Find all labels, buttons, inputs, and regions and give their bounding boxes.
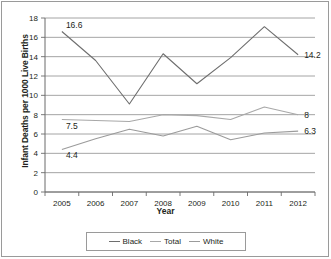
legend-label-white: White [203,237,223,246]
data-label: 6.3 [304,126,316,136]
data-label: 4.4 [66,150,78,160]
data-point-labels: 16.614.27.584.46.3 [66,20,321,161]
legend-item-black[interactable]: Black [109,237,143,246]
y-tick-label: 4 [34,149,39,158]
y-tick-labels: 024681012141618 [29,14,38,197]
y-tick-label: 8 [34,111,39,120]
chart-figure: Infant Deaths per 1000 Live Births 02468… [0,0,331,259]
gridlines [45,18,315,192]
legend-item-total[interactable]: Total [150,237,181,246]
y-tick-label: 14 [29,53,38,62]
legend-item-white[interactable]: White [189,237,223,246]
data-label: 16.6 [66,20,83,30]
data-label: 8 [304,110,309,120]
y-tick-label: 10 [29,91,38,100]
y-tick-label: 2 [34,169,39,178]
y-tick-label: 0 [34,188,39,197]
x-tick-marks [45,192,315,196]
series-line-white [62,126,298,149]
chart-legend: Black Total White [86,232,246,251]
legend-label-total: Total [164,237,181,246]
y-tick-label: 18 [29,14,38,23]
legend-line-icon-total [150,241,161,242]
series-lines [62,27,298,150]
y-tick-label: 12 [29,72,38,81]
data-label: 14.2 [304,50,321,60]
legend-label-black: Black [123,237,143,246]
series-line-total [62,107,298,122]
line-chart-svg: 024681012141618 200520062007200820092010… [0,0,331,259]
x-axis-title: Year [0,206,331,216]
y-tick-label: 16 [29,33,38,42]
y-tick-label: 6 [34,130,39,139]
legend-line-icon-white [189,241,200,242]
y-tick-marks [41,18,45,192]
data-label: 7.5 [66,121,78,131]
legend-line-icon-black [109,241,120,242]
series-line-black [62,27,298,104]
plot-area: 024681012141618 200520062007200820092010… [0,0,331,259]
